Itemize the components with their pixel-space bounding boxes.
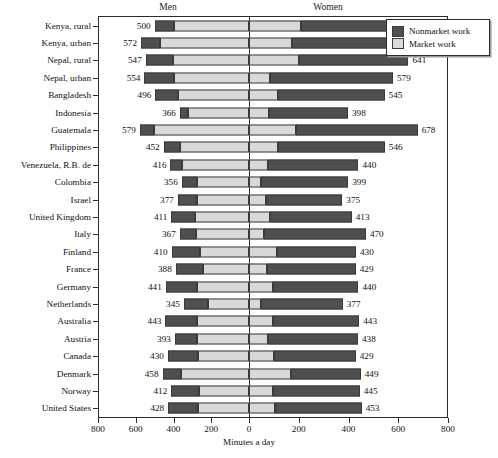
bar-value-women: 641 [412,55,454,65]
bar-women [249,246,356,257]
bar-value-men: 496 [109,90,151,100]
bar-women [249,38,396,49]
bar-segment-women-market [249,246,277,257]
bar-men [178,194,249,205]
bar-women [249,90,385,101]
bar-women [249,72,393,83]
bar-value-men: 388 [130,264,172,274]
population-pyramid-chart: Men Women Kenya, rural500676Kenya, urban… [0,0,498,458]
bar-segment-women-nonmarket [273,385,360,396]
x-axis-tick [349,418,350,423]
bar-segment-women-market [249,125,296,136]
bar-men [175,333,249,344]
y-axis-tick [93,60,98,61]
y-axis-category-label: Venezuela, R.B. de [21,160,91,170]
bar-men [140,125,249,136]
bar-value-women: 429 [360,351,402,361]
bar-men [182,177,249,188]
x-axis-tick-label: 200 [279,424,319,434]
bar-segment-men-nonmarket [171,385,198,396]
y-axis-category-label: Nepal, urban [44,73,91,83]
bar-segment-women-nonmarket [268,333,358,344]
bar-value-men: 547 [100,55,142,65]
bar-segment-men-nonmarket [172,246,200,257]
bar-value-women: 377 [347,299,389,309]
y-axis-category-label: Indonesia [55,108,91,118]
y-axis-tick [93,78,98,79]
y-axis-category-label: Denmark [57,369,91,379]
bar-rows-container: Kenya, rural500676Kenya, urban572590Nepa… [98,17,448,417]
bar-value-men: 356 [136,177,178,187]
chart-row: Venezuela, R.B. de416440 [98,156,448,173]
bar-segment-men-market [198,403,249,414]
x-axis-tick-label: 0 [229,424,269,434]
bar-men [166,281,249,292]
bar-segment-women-market [249,107,269,118]
y-axis-category-label: Israel [71,195,91,205]
y-axis-tick [93,113,98,114]
bar-women [249,229,366,240]
bar-segment-men-nonmarket [180,107,188,118]
bar-value-men: 430 [122,351,164,361]
chart-row: Bangladesh496545 [98,87,448,104]
chart-row: Colombia356399 [98,174,448,191]
chart-row: Guatemala579678 [98,121,448,138]
legend: Nonmarket work Market work [386,19,490,56]
bar-men [176,264,249,275]
bar-women [249,264,356,275]
bar-segment-women-market [249,351,274,362]
legend-label-market: Market work [409,39,456,49]
bar-men [170,159,249,170]
bar-men [146,55,249,66]
bar-value-women: 440 [362,160,404,170]
bar-segment-men-nonmarket [165,316,197,327]
bar-segment-women-nonmarket [275,403,362,414]
bar-segment-men-market [154,125,249,136]
y-axis-tick [93,269,98,270]
bar-segment-men-nonmarket [155,20,175,31]
y-axis-tick [93,321,98,322]
bar-segment-women-market [249,403,275,414]
bar-segment-women-nonmarket [266,194,342,205]
chart-row: Denmark458449 [98,365,448,382]
bar-segment-women-nonmarket [261,177,349,188]
bar-value-men: 579 [94,125,136,135]
bar-value-men: 345 [138,299,180,309]
y-axis-tick [93,408,98,409]
chart-row: Nepal, urban554579 [98,69,448,86]
bar-women [249,368,361,379]
bar-segment-men-market [197,316,249,327]
y-axis-tick [93,217,98,218]
bar-value-women: 399 [352,177,394,187]
bar-segment-women-market [249,281,273,292]
bar-value-men: 452 [118,142,160,152]
bar-segment-men-market [208,298,249,309]
bar-men [171,211,249,222]
bar-segment-women-nonmarket [299,55,408,66]
bar-women [249,316,359,327]
bar-segment-men-nonmarket [140,125,154,136]
bar-men [171,385,249,396]
bar-segment-women-nonmarket [267,264,355,275]
bar-segment-women-market [249,38,292,49]
bar-men [168,403,249,414]
bar-segment-men-nonmarket [171,211,195,222]
bar-segment-women-market [249,177,261,188]
bar-segment-men-market [203,264,249,275]
bar-men [144,72,249,83]
bar-value-women: 440 [362,282,404,292]
y-axis-category-label: Italy [74,229,91,239]
y-axis-category-label: United States [42,403,91,413]
y-axis-tick [93,165,98,166]
chart-row: Philippines452546 [98,139,448,156]
bar-segment-women-nonmarket [278,142,385,153]
y-axis-category-label: Austria [64,334,91,344]
bar-value-men: 367 [134,229,176,239]
bar-women [249,333,358,344]
x-axis-tick-label: 800 [428,424,468,434]
bar-segment-women-nonmarket [273,316,359,327]
bar-segment-women-market [249,298,261,309]
bar-segment-women-nonmarket [270,211,352,222]
bar-segment-women-nonmarket [296,125,418,136]
x-axis-tick [136,418,137,423]
